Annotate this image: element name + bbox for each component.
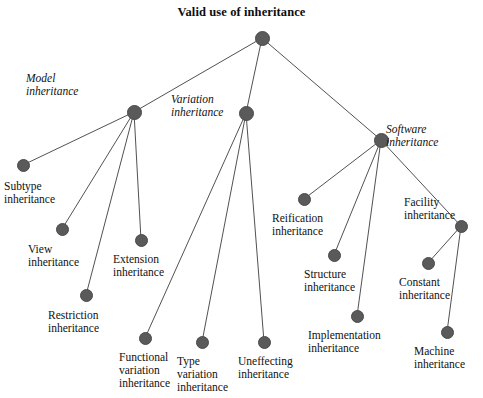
edge-model-to-extension [134,112,141,240]
node-constant[interactable] [422,257,435,270]
node-facility[interactable] [455,220,468,233]
node-view[interactable] [56,223,69,236]
node-label-implementation: Implementation inheritance [308,329,381,355]
node-extension[interactable] [135,234,148,247]
node-label-restriction: Restriction inheritance [48,309,99,335]
node-label-extension: Extension inheritance [113,253,164,279]
node-label-subtype: Subtype inheritance [4,180,55,206]
node-label-facility: Facility inheritance [404,196,455,222]
node-label-reification: Reification inheritance [272,212,323,238]
node-root[interactable] [255,31,270,46]
node-label-model: Model inheritance [26,72,78,98]
edge-variation-to-functional [145,113,246,338]
node-machine[interactable] [441,326,454,339]
node-label-machine: Machine inheritance [414,345,465,371]
edge-facility-to-constant [428,226,461,263]
node-label-software: Software inheritance [386,123,438,149]
node-implementation[interactable] [351,310,364,323]
node-label-variation: Variation inheritance [171,93,223,119]
node-structure[interactable] [328,249,341,262]
node-model[interactable] [127,105,142,120]
node-variation[interactable] [239,106,254,121]
edge-software-to-implementation [357,140,381,316]
node-reification[interactable] [298,193,311,206]
node-label-functional: Functional variation inheritance [119,351,170,391]
node-uneffecting[interactable] [258,336,271,349]
node-label-view: View inheritance [28,243,79,269]
node-label-structure: Structure inheritance [304,268,355,294]
node-functional[interactable] [139,332,152,345]
edge-variation-to-uneffecting [246,113,264,342]
node-subtype[interactable] [17,159,30,172]
edge-root-to-variation [246,38,262,113]
edge-software-to-structure [334,140,381,255]
node-label-constant: Constant inheritance [399,276,450,302]
node-label-type: Type variation inheritance [177,355,228,395]
node-type[interactable] [196,336,209,349]
node-label-uneffecting: Uneffecting inheritance [238,355,293,381]
edge-root-to-software [262,38,381,140]
diagram-canvas: Valid use of inheritance Model inheritan… [0,0,483,398]
edge-variation-to-type [202,113,246,342]
edge-software-to-reification [304,140,381,199]
node-restriction[interactable] [80,289,93,302]
